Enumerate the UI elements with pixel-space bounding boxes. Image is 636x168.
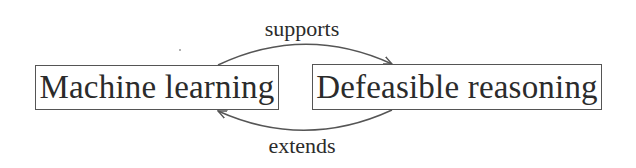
supports-arrow	[218, 44, 392, 65]
edge-label-supports: supports	[265, 16, 340, 42]
extends-arrow	[218, 110, 392, 130]
node-label: Machine learning	[39, 69, 274, 106]
edge-label-extends: extends	[268, 133, 335, 159]
node-label: Defeasible reasoning	[316, 69, 598, 106]
stray-dot	[179, 49, 181, 51]
node-machine-learning: Machine learning	[35, 65, 279, 110]
node-defeasible-reasoning: Defeasible reasoning	[312, 64, 602, 110]
